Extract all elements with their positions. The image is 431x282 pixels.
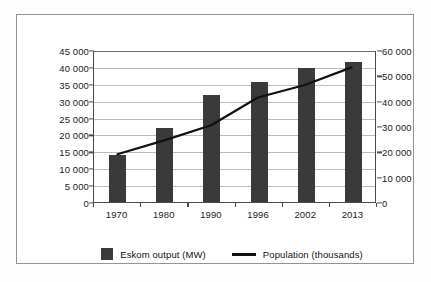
y-right-tick-label: 10 000 bbox=[382, 172, 412, 183]
y-right-tick-label: 60 000 bbox=[382, 46, 412, 57]
y-left-tick-label: 5 000 bbox=[65, 181, 89, 192]
y-right-tick-label: 30 000 bbox=[382, 122, 412, 133]
x-tick-label: 2002 bbox=[294, 209, 316, 220]
x-tick bbox=[329, 203, 330, 207]
legend-item-population: Population (thousands) bbox=[232, 249, 363, 260]
x-tick-label: 1996 bbox=[247, 209, 269, 220]
legend-label-population: Population (thousands) bbox=[263, 249, 363, 260]
y-right-tick-label: 0 bbox=[382, 198, 387, 209]
line-series bbox=[94, 51, 375, 202]
y-left-tick-label: 10 000 bbox=[59, 164, 89, 175]
bar-swatch-icon bbox=[101, 248, 113, 260]
y-right-tick-label: 20 000 bbox=[382, 147, 412, 158]
y-right-tick bbox=[377, 76, 382, 77]
legend-item-eskom-output: Eskom output (MW) bbox=[101, 248, 206, 260]
y-axis-right: 010 00020 00030 00040 00050 00060 000 bbox=[382, 51, 431, 203]
x-tick bbox=[282, 203, 283, 207]
line-swatch-icon bbox=[232, 253, 256, 256]
y-left-tick-label: 15 000 bbox=[59, 147, 89, 158]
y-right-tick bbox=[377, 202, 382, 203]
y-axis-left: 05 00010 00015 00020 00025 00030 00035 0… bbox=[33, 51, 89, 203]
y-right-tick-label: 50 000 bbox=[382, 71, 412, 82]
y-right-tick bbox=[377, 50, 382, 51]
y-left-tick-label: 40 000 bbox=[59, 62, 89, 73]
plot-area bbox=[93, 51, 376, 203]
chart-frame: 05 00010 00015 00020 00025 00030 00035 0… bbox=[16, 14, 414, 264]
x-tick-label: 1970 bbox=[106, 209, 128, 220]
y-right-tick-label: 40 000 bbox=[382, 96, 412, 107]
x-tick bbox=[140, 203, 141, 207]
x-tick-label: 1990 bbox=[200, 209, 222, 220]
x-tick bbox=[235, 203, 236, 207]
chart-figure: 05 00010 00015 00020 00025 00030 00035 0… bbox=[0, 0, 431, 282]
y-left-tick-label: 45 000 bbox=[59, 46, 89, 57]
legend-label-eskom-output: Eskom output (MW) bbox=[120, 249, 206, 260]
y-left-tick-label: 35 000 bbox=[59, 79, 89, 90]
y-right-tick bbox=[377, 126, 382, 127]
y-left-tick-label: 30 000 bbox=[59, 96, 89, 107]
chart-legend: Eskom output (MW) Population (thousands) bbox=[33, 243, 431, 265]
y-left-tick-label: 25 000 bbox=[59, 113, 89, 124]
y-right-tick bbox=[377, 152, 382, 153]
plot-inner bbox=[93, 51, 376, 203]
y-left-tick-label: 20 000 bbox=[59, 130, 89, 141]
x-tick-label: 2013 bbox=[342, 209, 364, 220]
population-line bbox=[117, 67, 351, 154]
x-tick bbox=[376, 203, 377, 207]
x-axis: 197019801990199620022013 bbox=[93, 203, 376, 227]
y-right-tick bbox=[377, 177, 382, 178]
y-right-tick bbox=[377, 101, 382, 102]
x-tick bbox=[187, 203, 188, 207]
x-tick-label: 1980 bbox=[153, 209, 175, 220]
x-tick bbox=[93, 203, 94, 207]
